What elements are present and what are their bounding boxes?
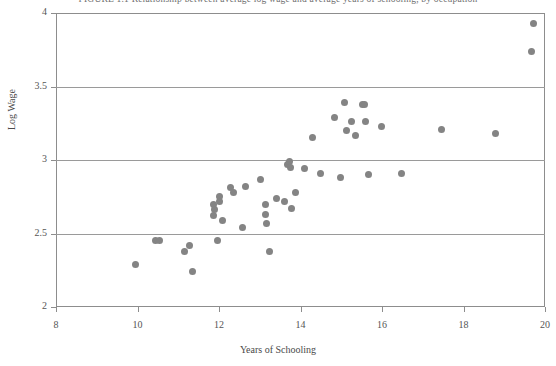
figure-scatter-log-wage-vs-schooling: FIGURE 1.1 Relationship between average … [0, 0, 556, 366]
x-tick-mark [219, 307, 220, 312]
x-tick-mark [382, 307, 383, 312]
y-tick-label: 4 [42, 6, 47, 17]
scatter-point [343, 127, 350, 134]
scatter-point [348, 118, 355, 125]
x-axis-label: Years of Schooling [0, 344, 556, 355]
x-tick-label: 10 [133, 319, 143, 330]
x-tick-mark [301, 307, 302, 312]
scatter-point [273, 195, 280, 202]
scatter-point [365, 171, 372, 178]
scatter-point [189, 268, 196, 275]
gridline-y-3 [56, 160, 545, 161]
scatter-point [186, 242, 193, 249]
scatter-point [362, 118, 369, 125]
x-tick-label: 18 [459, 319, 469, 330]
scatter-point [438, 126, 445, 133]
x-tick-mark [545, 307, 546, 312]
y-tick-mark [51, 234, 56, 235]
scatter-point [211, 206, 218, 213]
figure-caption: FIGURE 1.1 Relationship between average … [0, 0, 556, 6]
scatter-point [528, 48, 535, 55]
scatter-point [210, 212, 217, 219]
scatter-point [263, 220, 270, 227]
scatter-point [352, 132, 359, 139]
scatter-point [317, 170, 324, 177]
x-tick-mark [138, 307, 139, 312]
y-tick-label: 3.5 [35, 80, 48, 91]
scatter-point [156, 237, 163, 244]
y-tick-mark [51, 87, 56, 88]
scatter-point [257, 176, 264, 183]
scatter-point [292, 189, 299, 196]
x-tick-mark [56, 307, 57, 312]
y-tick-mark [51, 160, 56, 161]
x-tick-label: 12 [214, 319, 224, 330]
scatter-point [281, 198, 288, 205]
scatter-point [262, 201, 269, 208]
scatter-point [378, 123, 385, 130]
axis-frame-top [56, 13, 545, 14]
x-tick-label: 16 [377, 319, 387, 330]
scatter-point [530, 20, 537, 27]
scatter-point [266, 248, 273, 255]
x-tick-label: 14 [296, 319, 306, 330]
x-tick-label: 8 [54, 319, 59, 330]
scatter-point [309, 134, 316, 141]
y-tick-label: 2 [42, 300, 47, 311]
scatter-point [214, 237, 221, 244]
scatter-point [288, 205, 295, 212]
y-tick-label: 3 [42, 153, 47, 164]
scatter-point [337, 174, 344, 181]
scatter-point [239, 224, 246, 231]
scatter-point [242, 183, 249, 190]
scatter-point [301, 165, 308, 172]
x-tick-mark [464, 307, 465, 312]
y-axis-label: Log Wage [6, 89, 17, 130]
plot-area [56, 13, 545, 307]
scatter-point [219, 217, 226, 224]
scatter-point [132, 261, 139, 268]
scatter-point [262, 211, 269, 218]
y-tick-mark [51, 13, 56, 14]
scatter-point [287, 164, 294, 171]
gridline-y-3.5 [56, 87, 545, 88]
scatter-point [230, 189, 237, 196]
scatter-point [341, 99, 348, 106]
scatter-point [361, 101, 368, 108]
scatter-point [216, 198, 223, 205]
scatter-point [398, 170, 405, 177]
scatter-point [492, 130, 499, 137]
gridline-y-2.5 [56, 234, 545, 235]
scatter-point [331, 114, 338, 121]
y-tick-label: 2.5 [35, 227, 48, 238]
x-tick-label: 20 [540, 319, 550, 330]
